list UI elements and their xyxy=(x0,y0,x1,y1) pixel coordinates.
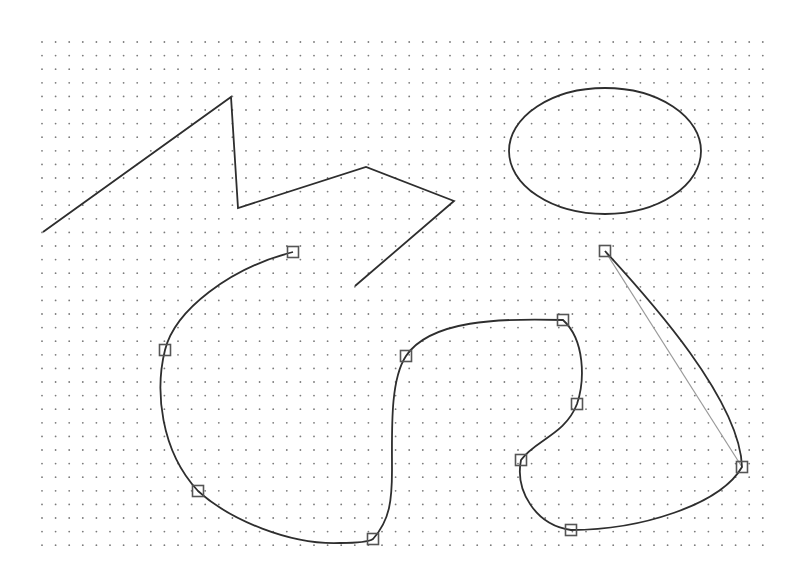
grid-dot xyxy=(82,96,84,98)
grid-dot xyxy=(123,531,125,533)
grid-dot xyxy=(531,286,533,288)
grid-dot xyxy=(490,381,492,383)
grid-dot xyxy=(558,245,560,247)
grid-dot xyxy=(368,96,370,98)
grid-dot xyxy=(680,327,682,329)
grid-dot xyxy=(177,449,179,451)
grid-dot xyxy=(653,449,655,451)
grid-dot xyxy=(82,191,84,193)
grid-dot xyxy=(640,136,642,138)
grid-dot xyxy=(572,82,574,84)
grid-dot xyxy=(408,368,410,370)
grid-dot xyxy=(109,436,111,438)
grid-dot xyxy=(748,82,750,84)
grid-dot xyxy=(422,177,424,179)
grid-dot xyxy=(68,136,70,138)
grid-dot xyxy=(136,504,138,506)
grid-dot xyxy=(204,177,206,179)
grid-dot xyxy=(191,164,193,166)
grid-dot xyxy=(612,354,614,356)
grid-dot xyxy=(300,544,302,546)
drawing-surface[interactable] xyxy=(0,0,807,587)
control-handles[interactable] xyxy=(160,246,748,545)
bezier-curve-shape[interactable] xyxy=(161,251,742,543)
grid-dot xyxy=(558,408,560,410)
grid-dot xyxy=(395,463,397,465)
grid-dot xyxy=(381,463,383,465)
grid-dot xyxy=(191,531,193,533)
grid-dot xyxy=(218,327,220,329)
polyline-shape[interactable] xyxy=(43,97,454,286)
grid-dot xyxy=(585,123,587,125)
grid-dot xyxy=(245,286,247,288)
grid-dot xyxy=(327,109,329,111)
grid-dot xyxy=(585,504,587,506)
grid-dot xyxy=(748,544,750,546)
grid-dot xyxy=(82,109,84,111)
grid-dot xyxy=(164,272,166,274)
grid-dot xyxy=(191,109,193,111)
grid-dot xyxy=(55,408,57,410)
grid-dot xyxy=(544,368,546,370)
grid-dot xyxy=(68,68,70,70)
grid-dot xyxy=(368,422,370,424)
grid-dot xyxy=(694,476,696,478)
grid-dot xyxy=(449,395,451,397)
drawing-canvas[interactable] xyxy=(0,0,807,587)
grid-dot xyxy=(177,245,179,247)
grid-dot xyxy=(218,204,220,206)
grid-dot xyxy=(572,422,574,424)
grid-dot xyxy=(218,490,220,492)
grid-dot xyxy=(476,395,478,397)
grid-dot xyxy=(300,191,302,193)
grid-dot xyxy=(572,354,574,356)
grid-dot xyxy=(395,504,397,506)
grid-dot xyxy=(653,463,655,465)
grid-dot xyxy=(150,245,152,247)
grid-dot xyxy=(640,531,642,533)
grid-dot xyxy=(735,300,737,302)
grid-dot xyxy=(82,408,84,410)
grid-dot xyxy=(395,544,397,546)
grid-dot xyxy=(531,476,533,478)
grid-dot xyxy=(585,544,587,546)
grid-dot xyxy=(164,55,166,57)
grid-dot xyxy=(272,245,274,247)
grid-dot xyxy=(191,463,193,465)
grid-dot xyxy=(476,82,478,84)
grid-dot xyxy=(449,164,451,166)
grid-dot xyxy=(259,381,261,383)
grid-dot xyxy=(55,531,57,533)
grid-dot xyxy=(164,96,166,98)
grid-dot xyxy=(721,136,723,138)
grid-dot xyxy=(218,436,220,438)
grid-dot xyxy=(164,381,166,383)
grid-dot xyxy=(449,476,451,478)
grid-dot xyxy=(354,55,356,57)
grid-dot xyxy=(449,436,451,438)
grid-dot xyxy=(191,327,193,329)
grid-dot xyxy=(748,177,750,179)
grid-dot xyxy=(517,245,519,247)
grid-dot xyxy=(136,327,138,329)
grid-dot xyxy=(41,177,43,179)
grid-dot xyxy=(354,517,356,519)
grid-dot xyxy=(599,68,601,70)
grid-dot xyxy=(272,109,274,111)
grid-dot xyxy=(245,218,247,220)
grid-dot xyxy=(408,123,410,125)
grid-dot xyxy=(300,340,302,342)
grid-dot xyxy=(68,300,70,302)
grid-dot xyxy=(449,286,451,288)
grid-dot xyxy=(558,136,560,138)
grid-dot xyxy=(68,96,70,98)
grid-dot xyxy=(626,218,628,220)
grid-dot xyxy=(395,96,397,98)
grid-dot xyxy=(762,313,764,315)
grid-dot xyxy=(680,82,682,84)
grid-dot xyxy=(313,490,315,492)
grid-dot xyxy=(667,123,669,125)
grid-dot xyxy=(531,41,533,43)
grid-dot xyxy=(504,68,506,70)
ellipse-shape[interactable] xyxy=(509,88,701,214)
